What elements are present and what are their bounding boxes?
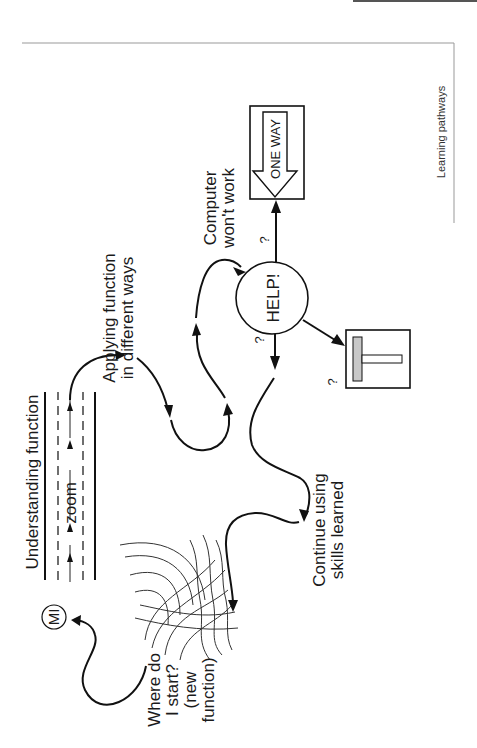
where-do-i-start-label: Where do I start? (new function) (145, 653, 218, 727)
question-t-sign: ? (325, 378, 340, 385)
svg-text:won't work: won't work (219, 168, 238, 249)
help-label: HELP! (264, 273, 283, 322)
svg-text:Computer: Computer (201, 170, 220, 245)
t-junction-sign (346, 330, 410, 388)
continue-path-1 (250, 378, 309, 515)
svg-text:skills learned: skills learned (328, 481, 347, 579)
continue-path-2 (226, 513, 299, 602)
understanding-function-label: Understanding function (23, 395, 42, 570)
continue-using-label: Continue using skills learned (310, 473, 347, 586)
svg-text:in different ways: in different ways (118, 257, 137, 380)
running-header: Learning pathways (435, 85, 447, 178)
question-down: ? (252, 336, 267, 343)
svg-text:(new: (new (181, 671, 200, 709)
applying-function-label: Applying function in different ways (100, 253, 137, 382)
wind-path-2 (171, 410, 229, 450)
arrow-to-t-sign (303, 320, 335, 340)
learning-pathways-diagram: Learning pathways Understanding function… (0, 0, 477, 748)
svg-text:Applying function: Applying function (100, 253, 119, 382)
question-oneway: ? (257, 236, 272, 243)
one-way-sign: ONE WAY (250, 106, 304, 199)
svg-text:Continue using: Continue using (310, 473, 329, 586)
wind-path-1 (137, 358, 168, 410)
mi-label: MI (45, 609, 62, 626)
tangle-icon (120, 535, 238, 660)
mi-node: MI (42, 605, 66, 629)
wind-path-3 (197, 333, 225, 398)
start-loop-path (75, 620, 146, 705)
help-node: HELP! (236, 262, 308, 334)
computer-wont-work-label: Computer won't work (201, 168, 238, 249)
svg-text:function): function) (199, 657, 218, 722)
one-way-label: ONE WAY (268, 119, 283, 179)
svg-text:I start?: I start? (163, 664, 182, 716)
zoom-label: zoom (61, 482, 80, 524)
svg-text:Where do: Where do (145, 653, 164, 727)
